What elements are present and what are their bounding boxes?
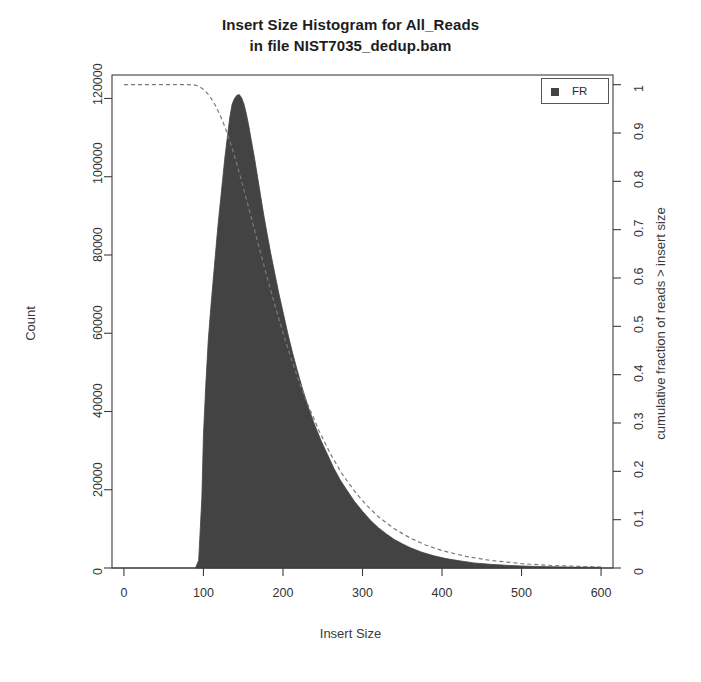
chart-title-line-2: in file NIST7035_dedup.bam [0, 35, 701, 56]
plot-frame [112, 75, 613, 568]
x-tick-label: 500 [511, 586, 532, 600]
x-tick-label: 100 [193, 586, 214, 600]
x-tick-label: 400 [432, 586, 453, 600]
insert-size-histogram-figure: Insert Size Histogram for All_Reads in f… [0, 0, 701, 682]
legend-marker-fr-icon [551, 88, 559, 96]
x-axis-title: Insert Size [0, 626, 701, 641]
legend-label-fr: FR [572, 85, 587, 97]
x-tick-label: 600 [591, 586, 612, 600]
secondary-y-axis-title: cumulative fraction of reads > insert si… [653, 164, 668, 484]
legend: FR [541, 78, 609, 104]
x-tick-label: 0 [120, 586, 127, 600]
chart-title-line-1: Insert Size Histogram for All_Reads [0, 14, 701, 35]
y-axis-title: Count [23, 274, 38, 374]
x-tick-label: 200 [273, 586, 294, 600]
cumulative-fraction-line [124, 85, 601, 567]
x-tick-label: 300 [352, 586, 373, 600]
chart-title: Insert Size Histogram for All_Reads in f… [0, 14, 701, 56]
histogram-area [196, 95, 602, 568]
